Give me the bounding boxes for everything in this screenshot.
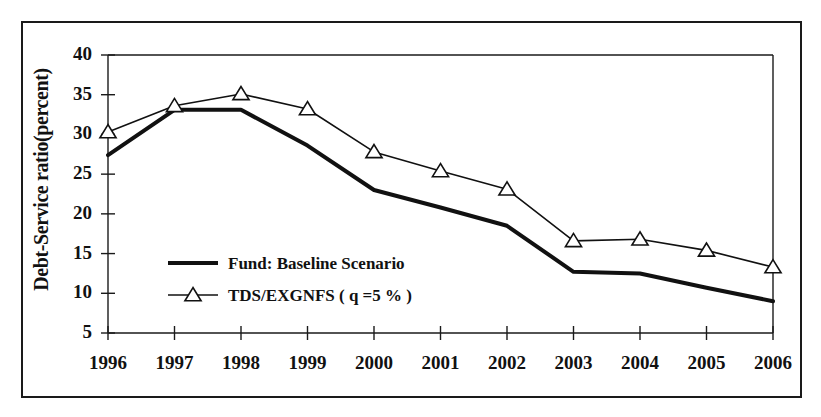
x-tick-label: 2004 <box>605 352 675 374</box>
x-tick-label: 1997 <box>140 352 210 374</box>
x-tick-label: 1998 <box>206 352 276 374</box>
y-tick-label: 20 <box>52 202 92 224</box>
x-tick-label: 2002 <box>472 352 542 374</box>
x-tick-label: 1999 <box>273 352 343 374</box>
y-tick-label: 35 <box>52 83 92 105</box>
y-tick-label: 40 <box>52 43 92 65</box>
x-tick-label: 2005 <box>672 352 742 374</box>
y-tick-label: 25 <box>52 162 92 184</box>
y-tick-label: 5 <box>52 321 92 343</box>
y-tick-label: 15 <box>52 242 92 264</box>
x-tick-label: 2001 <box>406 352 476 374</box>
y-tick-label: 30 <box>52 122 92 144</box>
figure-outer-border <box>21 21 802 398</box>
y-axis-title: Debt-Service ratio(percent) <box>30 35 53 325</box>
x-tick-label: 1996 <box>73 352 143 374</box>
x-tick-label: 2006 <box>738 352 808 374</box>
x-tick-label: 2000 <box>339 352 409 374</box>
x-tick-label: 2003 <box>539 352 609 374</box>
y-tick-label: 10 <box>52 281 92 303</box>
chart-figure: Debt-Service ratio(percent) Fund: Baseli… <box>0 0 821 417</box>
